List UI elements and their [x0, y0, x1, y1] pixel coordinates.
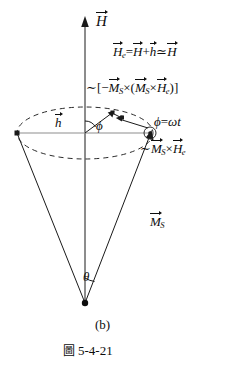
figure-caption: 圖5-4-21: [63, 344, 113, 357]
axis-arrowhead-icon: [81, 16, 89, 27]
panel-label: (b): [95, 318, 110, 331]
time-symbol: t: [177, 114, 181, 129]
torque-tilde: ∼: [86, 80, 97, 95]
torque-cross2: ×: [150, 80, 157, 95]
cone-apex-dot: [82, 300, 88, 306]
label-magnetization-vector: MS: [150, 213, 165, 230]
torque-close-bracket: ]: [174, 80, 178, 95]
orbit-left-endpoint-dot: [15, 131, 20, 136]
torque-cross1: ×: [123, 80, 130, 95]
precession-torque-tip-dot: [120, 116, 124, 120]
damping-torque-line: [119, 119, 148, 128]
equation-effective-field: He=H+h≃H: [113, 43, 177, 60]
equation-damping-torque: ∼[−MS×(MS×He)]: [86, 79, 178, 96]
torque-m1: M: [109, 79, 120, 94]
equation-precession-torque: ∼MS×He: [140, 140, 186, 157]
He-plus: +: [142, 44, 149, 59]
label-phi-angle: ϕ: [96, 119, 103, 132]
He-term2: h: [150, 43, 157, 58]
prec-tilde: ∼: [140, 141, 151, 156]
prec-cross: ×: [166, 141, 173, 156]
prec-m: M: [151, 140, 162, 155]
label-theta-angle: θ: [83, 270, 89, 283]
phi-symbol: ϕ: [154, 114, 161, 129]
axis-label-H: H: [96, 12, 107, 29]
He-term1: H: [133, 43, 142, 58]
vertical-axis-group: [81, 16, 89, 303]
axis-label-H-symbol: H: [96, 12, 107, 29]
He-rhs: H: [167, 43, 176, 58]
He-approx: ≃: [156, 44, 167, 59]
prec-h: H: [173, 140, 182, 155]
figure-page: H He=H+h≃H ∼[−MS×(MS×He)] h ϕ ϕ=ωt ∼MS×H…: [0, 0, 226, 372]
equation-phase-angle: ϕ=ωt: [154, 115, 181, 128]
orbit-h-tip-dot: [111, 111, 115, 115]
small-h-symbol: h: [55, 114, 62, 129]
caption-marker-glyph: 圖: [63, 344, 75, 358]
phi-equals: =: [161, 114, 168, 129]
torque-m2: M: [135, 79, 146, 94]
orbit-tip-dot: [148, 131, 152, 135]
magnetization-vector-line: [85, 135, 150, 303]
prec-h-sub: e: [182, 147, 186, 157]
He-equals: =: [126, 44, 133, 59]
cone-left-generator: [17, 133, 85, 303]
torque-h: H: [157, 79, 166, 94]
label-small-h-vector: h: [55, 114, 62, 129]
torque-minus: −: [101, 80, 108, 95]
omega-symbol: ω: [168, 114, 177, 129]
Ms-symbol: M: [150, 213, 161, 228]
caption-number: 5-4-21: [78, 343, 113, 358]
He-lhs-symbol: H: [113, 43, 122, 58]
